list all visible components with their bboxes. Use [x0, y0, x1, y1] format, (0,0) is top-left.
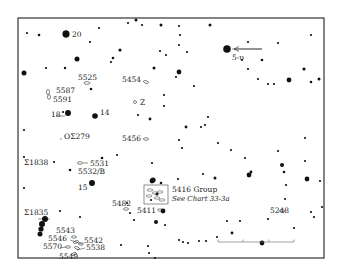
object-label: Z: [140, 98, 145, 107]
star: [116, 154, 118, 156]
bright-star: [150, 177, 155, 182]
star: [75, 57, 80, 62]
star: [304, 137, 306, 139]
star: [204, 124, 206, 126]
object-label: 5532/B: [78, 167, 106, 176]
star: [187, 242, 189, 244]
star: [69, 169, 72, 172]
galaxy-icon: [154, 197, 160, 199]
star: [163, 94, 165, 96]
object-label: 5416 Group: [172, 185, 217, 194]
star: [214, 177, 217, 180]
star: [110, 61, 112, 63]
object-label: 5454: [122, 75, 141, 84]
star: [177, 178, 179, 180]
star: [159, 50, 161, 52]
star: [98, 27, 100, 29]
bright-star: [223, 45, 231, 53]
star: [205, 240, 207, 242]
star: [244, 157, 246, 159]
star: [321, 206, 323, 208]
star: [165, 54, 167, 56]
star: [45, 67, 47, 69]
star: [285, 184, 287, 186]
star: [160, 24, 163, 27]
star: [226, 220, 228, 222]
star: [178, 44, 180, 46]
galaxy-icon: [143, 80, 149, 84]
galaxy-icon: [143, 138, 148, 141]
star: [216, 236, 218, 238]
star: [164, 224, 166, 226]
star: [319, 180, 321, 182]
star: [133, 219, 135, 221]
star: [154, 220, 158, 224]
star: [193, 85, 195, 87]
arrow-5-upsilon-icon: [234, 47, 262, 52]
star: [135, 19, 138, 22]
star: [293, 227, 295, 229]
star: [89, 41, 91, 43]
star: [59, 210, 61, 212]
star: [148, 252, 150, 254]
bright-star: [92, 113, 98, 119]
star: [186, 51, 188, 53]
object-labels: 205-υ5525545455875591Z1814ΟΣ2795456Σ1838…: [24, 30, 289, 261]
star: [22, 71, 27, 76]
star: [198, 240, 200, 242]
object-label: 14: [100, 108, 110, 117]
star: [181, 147, 183, 149]
object-label: 5549: [59, 252, 78, 261]
star: [304, 160, 306, 162]
star: [62, 111, 64, 113]
star: [280, 163, 284, 167]
star: [185, 126, 188, 129]
object-label: Σ1835: [24, 208, 49, 217]
star: [277, 150, 279, 152]
chart-reference-note: See Chart 33-3a: [172, 195, 230, 203]
object-label: 5482: [112, 199, 131, 208]
bright-star: [38, 226, 43, 231]
star: [178, 25, 180, 27]
galaxy-icon: [159, 199, 165, 201]
star: [178, 239, 180, 241]
star: [287, 78, 292, 83]
bright-star: [38, 232, 43, 237]
object-label: ΟΣ279: [64, 132, 90, 141]
object-label: 5570: [43, 242, 62, 251]
galaxy-icon: [147, 189, 153, 191]
star: [163, 105, 165, 107]
star: [273, 83, 275, 85]
leader-lines: [38, 49, 262, 250]
star: [239, 220, 241, 222]
star: [129, 212, 131, 214]
object-label: 15: [78, 183, 88, 192]
galaxy-icon: [134, 101, 137, 104]
galaxy-icon: [146, 195, 152, 197]
scale-bar: [218, 240, 294, 243]
star: [150, 199, 152, 201]
object-label: 18: [51, 110, 61, 119]
star: [230, 149, 232, 151]
galaxy-icon: [65, 246, 70, 248]
star: [79, 216, 81, 218]
star: [182, 241, 184, 243]
star: [175, 76, 177, 78]
galaxy-icon: [84, 82, 90, 85]
object-label: 5525: [78, 73, 97, 82]
star-chart: 205-υ5525545455875591Z1814ΟΣ2795456Σ1838…: [0, 0, 338, 276]
bright-star: [65, 110, 71, 116]
star: [305, 177, 310, 182]
object-label: Σ1838: [24, 158, 49, 167]
star: [141, 24, 143, 26]
star: [302, 67, 305, 70]
star: [179, 34, 181, 36]
star: [202, 173, 204, 175]
star: [120, 244, 122, 246]
star: [310, 81, 313, 84]
star: [257, 78, 259, 80]
star: [217, 142, 219, 144]
bright-star: [63, 31, 70, 38]
object-label: 5411: [137, 206, 156, 215]
star: [53, 161, 55, 163]
